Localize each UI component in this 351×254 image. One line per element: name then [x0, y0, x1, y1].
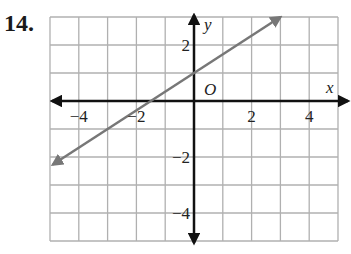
x-tick-label: 4 [305, 107, 314, 126]
y-tick-label: 2 [182, 36, 191, 55]
x-tick-label: 2 [247, 107, 256, 126]
plotted-line [53, 17, 281, 165]
y-axis-label: y [202, 15, 212, 34]
coordinate-graph: −4−2242−2−4Oxy [0, 0, 351, 254]
x-axis-label: x [325, 78, 334, 97]
x-tick-label: −2 [127, 107, 145, 126]
y-tick-label: −4 [172, 204, 191, 223]
y-tick-label: −2 [172, 148, 190, 167]
x-tick-label: −4 [70, 107, 89, 126]
origin-label: O [204, 80, 216, 99]
